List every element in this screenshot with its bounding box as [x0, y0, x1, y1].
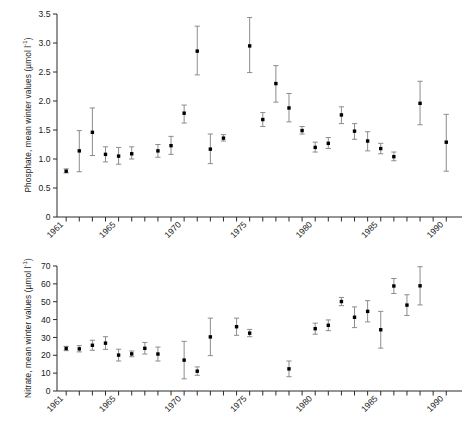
data-marker: [235, 325, 238, 328]
x-tick-label: 1990: [425, 393, 446, 414]
data-point: [208, 134, 213, 164]
data-marker: [222, 136, 225, 139]
data-point: [299, 127, 304, 135]
x-tick-label: 1980: [294, 219, 315, 240]
data-point: [90, 340, 95, 350]
x-tick-label: 1985: [359, 393, 380, 414]
data-marker: [196, 49, 199, 52]
data-marker: [130, 352, 133, 355]
data-point: [103, 337, 108, 350]
data-marker: [353, 129, 356, 132]
y-tick-label: 1.5: [39, 125, 51, 135]
x-tick-label: 1961: [44, 393, 65, 414]
data-point: [378, 311, 383, 348]
data-point: [391, 279, 396, 294]
data-point: [142, 342, 147, 354]
data-marker: [287, 367, 290, 370]
x-tick-label: 1965: [97, 219, 118, 240]
data-marker: [445, 140, 448, 143]
data-marker: [327, 324, 330, 327]
y-tick-label: 1.0: [39, 154, 51, 164]
data-marker: [182, 358, 185, 361]
data-point: [90, 108, 95, 156]
data-point: [404, 295, 409, 316]
x-tick-label: 1970: [162, 219, 183, 240]
data-marker: [340, 113, 343, 116]
panel-nitrate: Nitrate, mean winter values (µmol l-1) 0…: [0, 250, 471, 439]
data-marker: [209, 335, 212, 338]
data-marker: [130, 152, 133, 155]
data-marker: [418, 284, 421, 287]
data-point: [273, 66, 278, 103]
x-tick-label: 1970: [162, 393, 183, 414]
data-point: [247, 17, 252, 72]
data-point: [234, 318, 239, 335]
data-marker: [248, 44, 251, 47]
data-point: [155, 347, 160, 361]
data-point: [77, 346, 82, 352]
data-point: [352, 124, 357, 140]
data-point: [195, 367, 200, 375]
data-marker: [314, 327, 317, 330]
data-point: [129, 351, 134, 357]
data-point: [444, 114, 449, 171]
data-point: [286, 93, 291, 121]
data-marker: [91, 131, 94, 134]
data-marker: [64, 347, 67, 350]
data-marker: [366, 310, 369, 313]
data-point: [77, 131, 82, 172]
data-marker: [64, 169, 67, 172]
y-tick-label: 20: [41, 350, 51, 360]
data-marker: [418, 102, 421, 105]
data-point: [168, 136, 173, 154]
y-tick-label: 3.0: [39, 38, 51, 48]
data-marker: [327, 142, 330, 145]
data-marker: [156, 352, 159, 355]
x-tick-label: 1980: [294, 393, 315, 414]
data-point: [286, 361, 291, 377]
data-marker: [392, 155, 395, 158]
data-marker: [274, 82, 277, 85]
data-point: [116, 147, 121, 164]
data-marker: [353, 316, 356, 319]
y-tick-label: 70: [41, 261, 51, 271]
data-point: [129, 147, 134, 159]
data-marker: [182, 111, 185, 114]
data-point: [391, 152, 396, 161]
data-point: [247, 329, 252, 336]
x-tick-label: 1990: [425, 219, 446, 240]
data-point: [313, 142, 318, 152]
data-point: [155, 145, 160, 158]
plot-phosphate: 00.51.01.52.02.53.03.5196119651970197519…: [0, 0, 471, 250]
data-marker: [78, 149, 81, 152]
data-point: [64, 346, 69, 350]
data-marker: [117, 353, 120, 356]
data-marker: [78, 347, 81, 350]
data-point: [182, 341, 187, 379]
data-point: [221, 135, 226, 141]
y-tick-label: 0.5: [39, 183, 51, 193]
data-marker: [379, 328, 382, 331]
data-point: [208, 318, 213, 356]
data-point: [326, 320, 331, 331]
y-tick-label: 30: [41, 333, 51, 343]
data-marker: [248, 331, 251, 334]
data-point: [313, 323, 318, 334]
data-point: [64, 169, 69, 173]
data-point: [339, 297, 344, 305]
data-marker: [104, 341, 107, 344]
x-tick-label: 1985: [359, 219, 380, 240]
data-point: [195, 26, 200, 75]
data-marker: [104, 153, 107, 156]
y-tick-label: 0: [46, 386, 51, 396]
data-marker: [300, 129, 303, 132]
data-marker: [379, 147, 382, 150]
y-tick-label: 3.5: [39, 9, 51, 19]
plot-nitrate: 0102030405060701961196519701975198019851…: [0, 250, 471, 439]
data-point: [103, 147, 108, 162]
data-point: [326, 138, 331, 149]
y-tick-label: 10: [41, 368, 51, 378]
y-tick-label: 50: [41, 297, 51, 307]
data-point: [352, 307, 357, 328]
data-point: [417, 267, 422, 305]
